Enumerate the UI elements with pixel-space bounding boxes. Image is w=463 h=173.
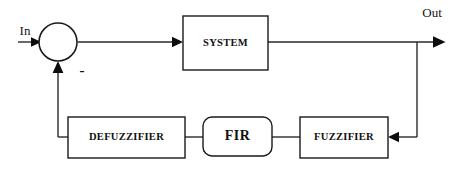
block-system-label: SYSTEM — [203, 37, 248, 48]
output-label: Out — [422, 5, 442, 20]
block-diagram-svg: SYSTEM DEFUZZIFIER FIR FUZZIFIER In Out … — [0, 0, 463, 173]
block-defuzzifier-label: DEFUZZIFIER — [89, 131, 164, 142]
input-label: In — [20, 23, 31, 38]
block-fir-label: FIR — [225, 128, 251, 143]
arrowhead-into-summing — [53, 61, 64, 73]
block-fuzzifier-label: FUZZIFIER — [314, 131, 374, 142]
block-diagram-canvas: SYSTEM DEFUZZIFIER FIR FUZZIFIER In Out … — [0, 0, 463, 173]
arrowhead-summing-to-system — [172, 37, 183, 47]
summing-negative-sign: - — [80, 62, 85, 78]
arrowhead-into-fuzzifier — [388, 132, 399, 142]
summing-junction-node[interactable] — [39, 23, 77, 61]
arrowhead-output — [433, 36, 446, 48]
